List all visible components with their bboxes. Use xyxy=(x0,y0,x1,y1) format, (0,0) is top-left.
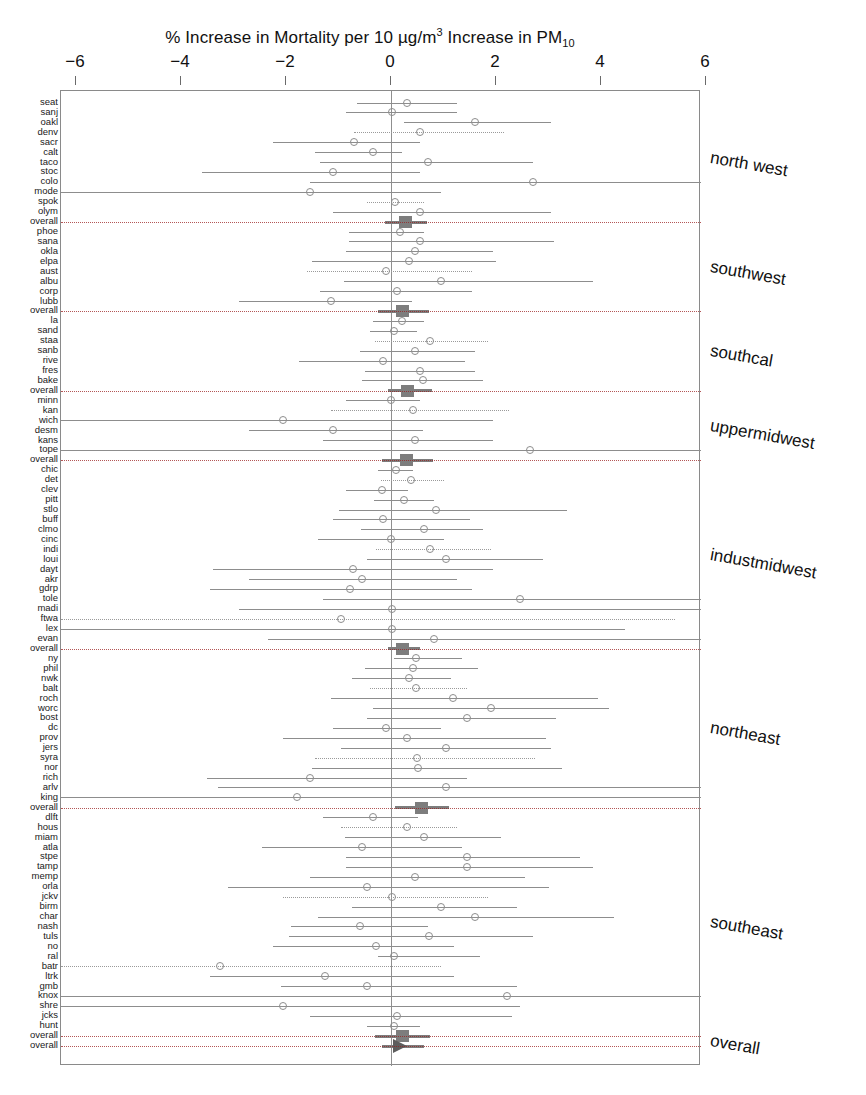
forest-row xyxy=(61,743,701,753)
city-estimate-marker xyxy=(463,714,471,722)
forest-row xyxy=(61,872,701,882)
city-estimate-marker xyxy=(414,764,422,772)
city-estimate-marker xyxy=(426,545,434,553)
forest-row xyxy=(61,207,701,217)
forest-row xyxy=(61,535,701,545)
forest-row xyxy=(61,445,701,455)
city-estimate-marker xyxy=(405,257,413,265)
confidence-interval-line xyxy=(315,152,402,153)
city-estimate-marker xyxy=(393,287,401,295)
forest-row xyxy=(61,694,701,704)
x-tick-label: 6 xyxy=(685,52,725,72)
city-estimate-marker xyxy=(279,1002,287,1010)
chart-title-subscript: 10 xyxy=(562,37,574,49)
city-label: overall xyxy=(2,802,58,812)
forest-row xyxy=(61,852,701,862)
city-label: oakl xyxy=(2,117,58,127)
city-label: okla xyxy=(2,246,58,256)
forest-row xyxy=(61,465,701,475)
city-estimate-marker xyxy=(388,625,396,633)
city-estimate-marker xyxy=(412,654,420,662)
confidence-interval-line xyxy=(61,797,701,798)
city-estimate-marker xyxy=(387,535,395,543)
forest-row xyxy=(61,674,701,684)
forest-row xyxy=(61,128,701,138)
city-label: aust xyxy=(2,266,58,276)
region-label-southcal: southcal xyxy=(709,341,775,372)
confidence-interval-line xyxy=(281,986,517,987)
confidence-interval-line xyxy=(61,996,701,997)
city-label: cinc xyxy=(2,534,58,544)
city-estimate-marker xyxy=(396,228,404,236)
region-separator xyxy=(61,391,701,392)
city-estimate-marker xyxy=(329,168,337,176)
confidence-interval-line xyxy=(352,907,517,908)
region-label-southeast: southeast xyxy=(709,912,785,945)
confidence-interval-line xyxy=(210,589,473,590)
city-estimate-marker xyxy=(426,337,434,345)
confidence-interval-line xyxy=(61,1006,520,1007)
city-label: nash xyxy=(2,921,58,931)
confidence-interval-line xyxy=(61,966,441,967)
chart-title-unit: µg/m xyxy=(398,28,437,47)
city-estimate-marker xyxy=(403,99,411,107)
forest-row xyxy=(61,366,701,376)
city-estimate-marker xyxy=(379,357,387,365)
city-estimate-marker xyxy=(430,635,438,643)
city-estimate-marker xyxy=(392,466,400,474)
plot-area xyxy=(60,90,700,1065)
forest-row xyxy=(61,972,701,982)
city-label: tuls xyxy=(2,931,58,941)
city-estimate-marker xyxy=(391,198,399,206)
confidence-interval-line xyxy=(283,738,546,739)
city-label: balt xyxy=(2,683,58,693)
city-estimate-marker xyxy=(388,605,396,613)
forest-row xyxy=(61,316,701,326)
city-label: nwk xyxy=(2,673,58,683)
forest-row xyxy=(61,654,701,664)
forest-row xyxy=(61,336,701,346)
x-tick-label: 4 xyxy=(580,52,620,72)
city-estimate-marker xyxy=(416,208,424,216)
x-tick-mark xyxy=(600,76,601,85)
x-tick-label: 0 xyxy=(370,52,410,72)
confidence-interval-line xyxy=(202,172,420,173)
forest-row xyxy=(61,267,701,277)
forest-row xyxy=(61,624,701,634)
city-estimate-marker xyxy=(369,813,377,821)
city-estimate-marker xyxy=(390,952,398,960)
city-label: wich xyxy=(2,415,58,425)
city-estimate-marker xyxy=(379,515,387,523)
forest-row xyxy=(61,942,701,952)
x-tick-mark xyxy=(75,76,76,85)
city-estimate-marker xyxy=(463,853,471,861)
forest-row xyxy=(61,634,701,644)
confidence-interval-line xyxy=(61,619,675,620)
city-label: sanj xyxy=(2,107,58,117)
city-estimate-marker xyxy=(411,436,419,444)
forest-row xyxy=(61,485,701,495)
city-estimate-marker xyxy=(378,486,386,494)
city-estimate-marker xyxy=(279,416,287,424)
forest-row xyxy=(61,843,701,853)
x-tick-mark xyxy=(495,76,496,85)
city-label: batr xyxy=(2,961,58,971)
forest-row xyxy=(61,1021,701,1031)
city-estimate-marker xyxy=(358,575,366,583)
forest-row xyxy=(61,555,701,565)
city-estimate-marker xyxy=(293,793,301,801)
city-estimate-marker xyxy=(382,724,390,732)
region-separator xyxy=(61,1036,701,1037)
forest-row xyxy=(61,167,701,177)
city-estimate-marker xyxy=(420,833,428,841)
confidence-interval-line xyxy=(346,251,493,252)
forest-row xyxy=(61,346,701,356)
city-label: miam xyxy=(2,832,58,842)
forest-row xyxy=(61,783,701,793)
confidence-interval-line xyxy=(346,112,456,113)
confidence-interval-line xyxy=(333,212,551,213)
city-estimate-marker xyxy=(526,446,534,454)
x-tick-mark xyxy=(180,76,181,85)
city-estimate-marker xyxy=(398,317,406,325)
confidence-interval-line xyxy=(289,936,533,937)
